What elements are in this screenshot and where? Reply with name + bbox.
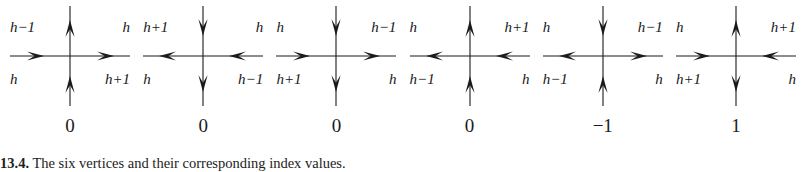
vertex-2: h+1hhh−10 bbox=[137, 0, 269, 135]
vertex-1-label-bottom-left: h bbox=[10, 72, 18, 87]
vertex-3-label-bottom-left: h+1 bbox=[276, 72, 301, 87]
vertex-6-cross: hh+1h+1h bbox=[670, 0, 802, 112]
vertex-5-label-bottom-right: h bbox=[655, 72, 663, 87]
vertex-6-label-bottom-left: h+1 bbox=[676, 72, 701, 87]
vertex-2-label-top-left: h+1 bbox=[143, 20, 168, 35]
vertex-4-arrows bbox=[404, 0, 536, 112]
vertex-1: h−1hhh+10 bbox=[4, 0, 136, 135]
figure-caption: 13.4. The six vertices and their corresp… bbox=[0, 155, 806, 172]
vertex-2-arrows bbox=[137, 0, 269, 112]
vertex-1-label-top-left: h−1 bbox=[10, 20, 35, 35]
vertex-6-label-top-left: h bbox=[676, 20, 684, 35]
vertex-3-label-top-right: h−1 bbox=[371, 20, 396, 35]
vertex-3-label-bottom-right: h bbox=[389, 72, 397, 87]
vertex-2-label-bottom-right: h−1 bbox=[238, 72, 263, 87]
vertex-3-label-top-left: h bbox=[276, 20, 284, 35]
vertex-4-cross: hh+1h−1h bbox=[404, 0, 536, 112]
vertex-5-cross: hh−1h−1h bbox=[537, 0, 669, 112]
vertex-5-label-top-left: h bbox=[543, 20, 551, 35]
vertex-3: hh−1h+1h0 bbox=[270, 0, 402, 135]
vertex-4: hh+1h−1h0 bbox=[404, 0, 536, 135]
vertex-3-arrows bbox=[270, 0, 402, 112]
vertex-4-label-top-right: h+1 bbox=[504, 20, 529, 35]
vertex-3-cross: hh−1h+1h bbox=[270, 0, 402, 112]
vertex-2-index: 0 bbox=[198, 116, 208, 135]
vertex-1-label-bottom-right: h+1 bbox=[105, 72, 130, 87]
vertex-4-label-bottom-left: h−1 bbox=[410, 72, 435, 87]
vertex-2-label-bottom-left: h bbox=[143, 72, 151, 87]
vertex-5-arrows bbox=[537, 0, 669, 112]
vertex-6: hh+1h+1h1 bbox=[670, 0, 802, 135]
vertex-1-arrows bbox=[4, 0, 136, 112]
figure-caption-number: 13.4. bbox=[0, 155, 29, 171]
vertex-6-index: 1 bbox=[731, 116, 741, 135]
vertex-5-label-bottom-left: h−1 bbox=[543, 72, 568, 87]
vertex-2-cross: h+1hhh−1 bbox=[137, 0, 269, 112]
vertex-4-index: 0 bbox=[465, 116, 475, 135]
vertex-6-label-top-right: h+1 bbox=[771, 20, 796, 35]
vertex-4-label-top-left: h bbox=[410, 20, 418, 35]
vertex-5-label-top-right: h−1 bbox=[638, 20, 663, 35]
vertex-1-index: 0 bbox=[65, 116, 75, 135]
vertex-1-cross: h−1hhh+1 bbox=[4, 0, 136, 112]
vertex-5: hh−1h−1h−1 bbox=[537, 0, 669, 135]
vertex-figures-row: h−1hhh+10h+1hhh−10hh−1h+1h0hh+1h−1h0hh−1… bbox=[0, 0, 806, 148]
vertex-5-index: −1 bbox=[593, 116, 613, 135]
vertex-6-label-bottom-right: h bbox=[788, 72, 796, 87]
vertex-1-label-top-right: h bbox=[123, 20, 131, 35]
vertex-6-arrows bbox=[670, 0, 802, 112]
figure-caption-text: The six vertices and their corresponding… bbox=[32, 155, 345, 171]
vertex-4-label-bottom-right: h bbox=[522, 72, 530, 87]
vertex-2-label-top-right: h bbox=[256, 20, 264, 35]
vertex-3-index: 0 bbox=[332, 116, 342, 135]
